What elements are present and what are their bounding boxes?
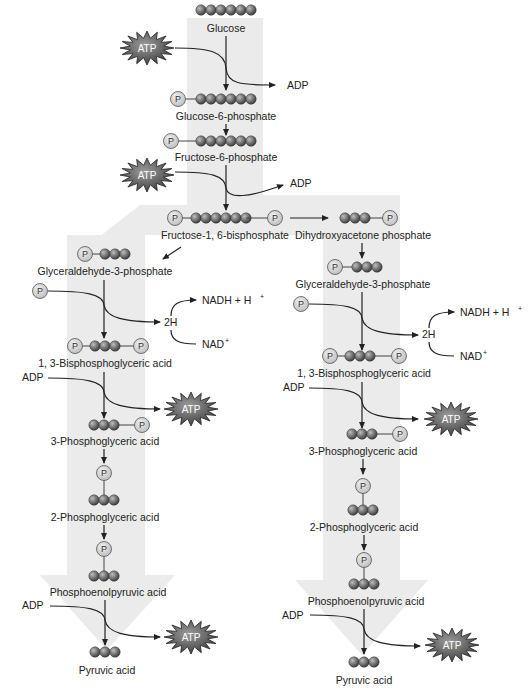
- carbon-chain-icon: [345, 351, 375, 361]
- phosphate-label: P: [361, 555, 367, 565]
- phosphate-icon: P: [393, 427, 408, 442]
- phosphate-label: P: [101, 544, 107, 554]
- adp-input-left-1: ADP: [22, 371, 44, 383]
- phosphate-label: P: [168, 136, 174, 146]
- nadh-label: NADH + H: [460, 306, 509, 318]
- adp-input-right-1-text: ADP: [283, 381, 305, 393]
- pg3-right-label: 3-Phosphoglyceric acid: [309, 445, 418, 457]
- phosphate-label: P: [139, 420, 145, 430]
- molecule-pyruvic-acid-left: Pyruvic acid: [79, 647, 136, 676]
- phosphate-icon: P: [168, 211, 183, 226]
- nad-label: NAD: [460, 350, 483, 362]
- atp-burst-icon: ATP: [120, 31, 174, 65]
- adp-input-right-2: ADP: [282, 609, 304, 621]
- adp-input-left-2: ADP: [22, 599, 44, 611]
- f16bp-label: Fructose-1, 6-bisphosphate: [161, 229, 289, 241]
- pyr-left-label: Pyruvic acid: [79, 664, 136, 676]
- curved-arrow: [429, 312, 454, 328]
- atp-burst-icon: ATP: [424, 402, 478, 436]
- phosphate-icon: P: [383, 211, 398, 226]
- curved-arrow: [429, 342, 454, 356]
- phosphate-icon: P: [78, 247, 93, 262]
- atp-label: ATP: [138, 43, 157, 54]
- atp-burst-icon: ATP: [120, 158, 174, 192]
- phosphate-label: P: [360, 481, 366, 491]
- adp-input-right-1: ADP: [283, 381, 305, 393]
- carbon-chain-icon: [89, 420, 119, 430]
- glycolysis-diagram: GlucoseATPADPPGlucose-6-phosphatePFructo…: [0, 0, 528, 691]
- phosphate-label: P: [101, 468, 107, 478]
- phosphate-icon: P: [392, 349, 407, 364]
- phosphate-label: P: [387, 213, 393, 223]
- phosphate-label: P: [298, 299, 304, 309]
- adp-label-1-text: ADP: [287, 79, 309, 91]
- g3p-right-label: Glyceraldehyde-3-phosphate: [296, 278, 431, 290]
- phosphate-label: P: [82, 249, 88, 259]
- dhap-label: Dihydroxyacetone phosphate: [295, 229, 431, 241]
- two-h-label: 2H: [422, 328, 435, 340]
- carbon-chain-icon: [196, 5, 256, 15]
- atp-label: ATP: [443, 640, 462, 651]
- phosphate-icon: P: [97, 542, 112, 557]
- phosphate-icon: P: [357, 553, 372, 568]
- phosphate-icon: P: [97, 466, 112, 481]
- curved-arrow: [171, 300, 196, 316]
- carbon-chain-icon: [340, 213, 370, 223]
- carbon-chain-icon: [90, 341, 120, 351]
- phosphate-label: P: [327, 351, 333, 361]
- phosphate-icon: P: [135, 418, 150, 433]
- phosphate-label: P: [397, 429, 403, 439]
- adp-label-2-text: ADP: [290, 177, 312, 189]
- phosphate-label: P: [138, 341, 144, 351]
- phosphate-label: P: [272, 213, 278, 223]
- adp-label-2: ADP: [290, 177, 312, 189]
- phosphate-icon: P: [171, 92, 186, 107]
- phosphate-icon: P: [268, 211, 283, 226]
- atp-burst-icon: ATP: [164, 620, 218, 654]
- pep-right-label: Phosphoenolpyruvic acid: [308, 595, 425, 607]
- carbon-chain-icon: [89, 495, 119, 505]
- phosphate-label: P: [172, 213, 178, 223]
- g6p-label: Glucose-6-phosphate: [176, 110, 277, 122]
- phosphate-input-left: P: [33, 284, 48, 299]
- two-h-label: 2H: [164, 316, 177, 328]
- nadh-superscript: +: [518, 305, 522, 312]
- carbon-chain-icon: [352, 262, 382, 272]
- bpg-right-label: 1, 3-Bisphosphoglyceric acid: [297, 367, 431, 379]
- adp-label-1: ADP: [287, 79, 309, 91]
- carbon-chain-icon: [349, 579, 379, 589]
- atp-burst-icon: ATP: [425, 628, 479, 662]
- adp-input-left-2-text: ADP: [22, 599, 44, 611]
- phosphate-icon: P: [328, 260, 343, 275]
- adp-input-right-2-text: ADP: [282, 609, 304, 621]
- phosphate-icon: P: [294, 297, 309, 312]
- phosphate-icon: P: [356, 479, 371, 494]
- pep-left-label: Phosphoenolpyruvic acid: [50, 586, 167, 598]
- atp-label: ATP: [138, 170, 157, 181]
- carbon-chain-icon: [349, 657, 379, 667]
- atp-label: ATP: [182, 404, 201, 415]
- pg2-right-label: 2-Phosphoglyceric acid: [310, 521, 419, 533]
- atp-label: ATP: [182, 632, 201, 643]
- phosphate-label: P: [72, 341, 78, 351]
- phosphate-icon: P: [134, 339, 149, 354]
- g3p-left-label: Glyceraldehyde-3-phosphate: [38, 265, 173, 277]
- phosphate-label: P: [332, 262, 338, 272]
- atp-label: ATP: [442, 414, 461, 425]
- curved-arrow: [171, 330, 196, 344]
- nad-superscript: +: [225, 337, 229, 344]
- bpg-left-label: 1, 3-Bisphosphoglyceric acid: [38, 357, 172, 369]
- phosphate-label: P: [175, 94, 181, 104]
- phosphate-input-right: P: [294, 297, 309, 312]
- carbon-chain-icon: [348, 505, 378, 515]
- glucose-label: Glucose: [207, 22, 246, 34]
- phosphate-label: P: [37, 286, 43, 296]
- pyr-right-label: Pyruvic acid: [336, 674, 393, 686]
- nad-label: NAD: [202, 338, 225, 350]
- phosphate-icon: P: [164, 134, 179, 149]
- nadh-label: NADH + H: [202, 294, 251, 306]
- carbon-chain-icon: [89, 571, 119, 581]
- phosphate-label: P: [396, 351, 402, 361]
- molecule-pyruvic-acid-right: Pyruvic acid: [336, 657, 393, 686]
- arrow: [163, 247, 181, 259]
